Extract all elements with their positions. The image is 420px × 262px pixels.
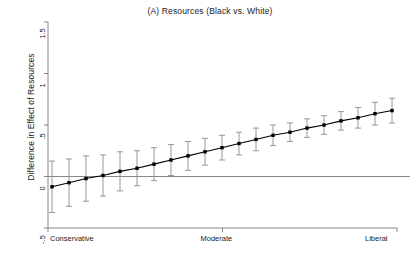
data-point-marker — [50, 185, 53, 188]
y-axis-label: Difference in Effect of Resources — [26, 22, 36, 212]
data-point-marker — [186, 154, 189, 157]
data-point-marker — [84, 177, 87, 180]
y-axis-tick-label: 0 — [38, 176, 47, 200]
data-point-marker — [203, 150, 206, 153]
data-point-marker — [288, 131, 291, 134]
data-point-marker — [220, 146, 223, 149]
data-point-marker — [390, 109, 393, 112]
data-point-marker — [152, 162, 155, 165]
data-point-marker — [305, 126, 308, 129]
data-point-marker — [118, 170, 121, 173]
data-point-marker — [67, 181, 70, 184]
error-bars — [49, 98, 395, 212]
data-point-marker — [271, 134, 274, 137]
data-point-marker — [135, 167, 138, 170]
data-point-marker — [356, 116, 359, 119]
x-axis-tick-label: Liberal — [365, 234, 388, 243]
data-point-marker — [339, 119, 342, 122]
chart-figure: (A) Resources (Black vs. White) Differen… — [0, 0, 420, 262]
data-point-marker — [101, 174, 104, 177]
axes — [44, 22, 397, 232]
data-point-marker — [322, 123, 325, 126]
data-point-marker — [254, 138, 257, 141]
y-axis-tick-label: -.5 — [38, 228, 47, 252]
chart-title: (A) Resources (Black vs. White) — [0, 6, 420, 16]
plot-canvas — [0, 0, 420, 262]
data-point-marker — [237, 142, 240, 145]
y-axis-tick-label: 1.5 — [38, 22, 47, 46]
data-point-marker — [169, 158, 172, 161]
data-point-marker — [373, 112, 376, 115]
y-axis-tick-label: 1 — [38, 73, 47, 97]
y-axis-tick-label: .5 — [38, 125, 47, 149]
x-axis-tick-label: Moderate — [201, 234, 233, 243]
x-axis-tick-label: Conservative — [50, 234, 94, 243]
